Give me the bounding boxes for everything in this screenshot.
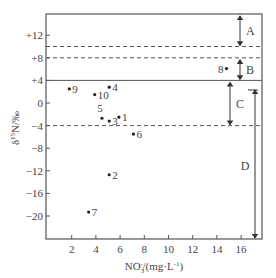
y-tick-label: −12	[26, 165, 43, 177]
x-tick-label: 10	[163, 243, 175, 255]
range-c: C	[230, 82, 244, 124]
data-point-5: 5	[97, 102, 103, 120]
x-tick-label: 16	[236, 243, 248, 255]
y-tick-label: −4	[31, 120, 43, 132]
x-tick-label: 2	[69, 243, 75, 255]
x-axis-ticks: 246810121416	[69, 235, 247, 255]
svg-text:6: 6	[136, 128, 142, 140]
svg-text:1: 1	[122, 111, 128, 123]
data-point-10: 10	[93, 89, 109, 101]
data-point-7: 7	[87, 206, 98, 218]
range-d: D	[241, 90, 255, 238]
plot-frame	[46, 14, 262, 239]
y-tick-label: −8	[31, 142, 43, 154]
range-a: A	[240, 16, 255, 46]
svg-text:7: 7	[92, 206, 98, 218]
y-axis-label: δ15N/‰	[9, 111, 21, 145]
x-tick-label: 4	[93, 243, 99, 255]
svg-text:9: 9	[72, 83, 78, 95]
x-tick-label: 8	[142, 243, 148, 255]
data-point-2: 2	[108, 169, 118, 181]
data-point-9: 9	[68, 83, 79, 95]
svg-text:2: 2	[112, 169, 118, 181]
y-tick-label: +4	[31, 74, 43, 86]
x-tick-label: 6	[117, 243, 123, 255]
x-tick-label: 12	[187, 243, 198, 255]
data-point-1: 1	[117, 111, 127, 123]
svg-text:8: 8	[218, 63, 224, 75]
svg-text:B: B	[246, 63, 254, 77]
data-point-8: 8	[218, 63, 228, 75]
svg-text:D: D	[241, 159, 250, 173]
y-tick-label: +8	[31, 52, 43, 64]
data-point-6: 6	[132, 128, 143, 140]
svg-text:5: 5	[97, 102, 103, 114]
svg-text:10: 10	[98, 89, 110, 101]
svg-text:A: A	[246, 24, 255, 38]
y-tick-label: −20	[26, 210, 44, 222]
y-tick-label: 0	[38, 97, 44, 109]
y-axis-ticks: +12+8+40−4−8−12−16−20	[26, 29, 50, 222]
svg-text:3: 3	[112, 115, 118, 127]
data-point-4: 4	[108, 81, 119, 93]
data-points: 12345678910	[68, 63, 229, 219]
range-b: B	[240, 60, 254, 80]
scatter-chart: +12+8+40−4−8−12−16−20 246810121416 12345…	[0, 0, 276, 278]
y-tick-label: +12	[26, 29, 43, 41]
svg-text:C: C	[236, 97, 244, 111]
x-tick-label: 14	[211, 243, 223, 255]
svg-text:4: 4	[112, 81, 118, 93]
y-tick-label: −16	[26, 187, 44, 199]
x-axis-label: NO3-/(mg·L-1)	[125, 260, 184, 275]
range-arrows: ABCD	[230, 16, 258, 238]
